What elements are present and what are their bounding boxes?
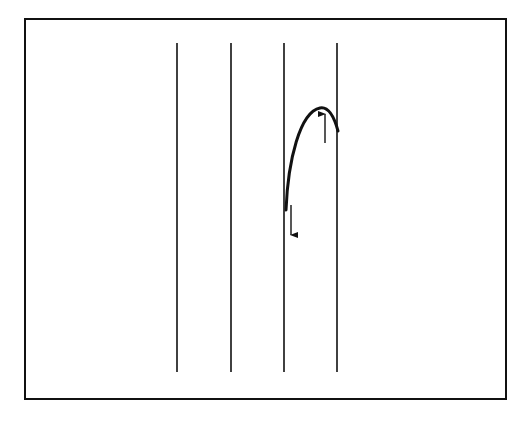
curve-arc [286,108,338,210]
arrows-group [291,114,325,235]
diagram-canvas [0,0,525,433]
frame-border [25,19,506,399]
vertical-lines-group [177,43,337,372]
